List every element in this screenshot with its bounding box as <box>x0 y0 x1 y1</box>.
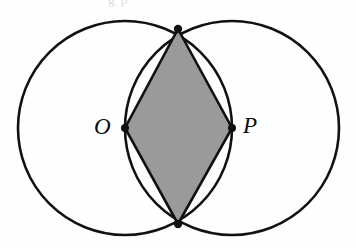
figure-container: g p O P <box>0 0 356 248</box>
shaded-rhombus <box>125 29 232 224</box>
point-label-o: O <box>94 115 111 138</box>
point-p-dot <box>228 124 236 132</box>
point-o-dot <box>121 124 129 132</box>
bottom-intersection-dot <box>174 220 182 228</box>
top-intersection-dot <box>174 25 182 33</box>
point-label-p: P <box>243 114 257 137</box>
geometry-figure <box>0 0 356 248</box>
